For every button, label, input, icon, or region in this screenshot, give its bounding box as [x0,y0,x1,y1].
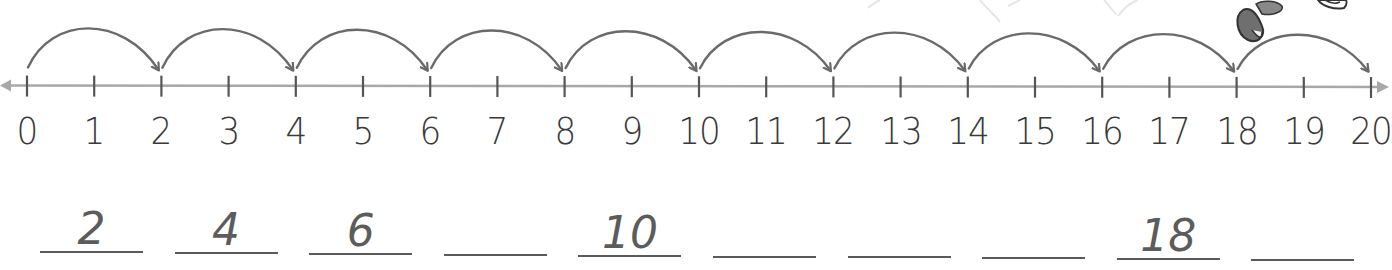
tick-label: 10 [678,112,720,150]
answer-blank[interactable]: 2 [40,219,143,253]
hop-arrow [162,29,292,70]
blank-underline [578,255,681,257]
tick-label: 4 [285,112,306,150]
tick-label: 17 [1149,112,1191,150]
left-arrow-icon [0,80,11,92]
hop-arrow [297,30,427,70]
tick-label: 2 [151,112,172,150]
hop-arrow [431,31,561,71]
answer-blank[interactable]: 10 [578,223,681,257]
handwritten-answer: 2 [40,207,143,251]
tick-label: 12 [813,112,855,150]
answer-blank[interactable] [1251,227,1354,261]
tick-label: 11 [745,112,787,150]
blank-underline [848,256,951,258]
tick-label: 8 [554,112,575,150]
right-arrow-icon [1377,81,1389,93]
blank-underline [309,253,412,255]
tick-label: 19 [1283,112,1325,150]
blank-underline [444,254,547,256]
handwritten-answer: 10 [578,211,681,255]
tick-label: 13 [880,112,922,150]
tick-label: 7 [487,112,508,150]
tick-label: 9 [621,112,642,150]
blank-underline [175,252,278,254]
handwritten-answer: 18 [1117,214,1220,258]
blank-underline [713,256,816,258]
tick-label: 0 [17,112,38,150]
answer-blank[interactable]: 6 [309,221,412,255]
tick-label: 15 [1014,112,1056,150]
answer-blank[interactable] [444,222,547,256]
answer-blank[interactable]: 4 [175,220,278,254]
tick-label: 6 [420,112,441,150]
handwritten-answer: 4 [175,208,278,252]
tick-label: 5 [353,112,374,150]
hop-arrow [566,31,696,70]
faint-background-lines [868,0,1138,22]
tick-label: 18 [1216,112,1258,150]
hop-arrow [1103,34,1233,71]
hop-arrow [969,33,1099,70]
blank-underline [1251,259,1354,261]
tick-label: 20 [1350,112,1392,150]
hop-arrow [834,33,964,71]
hop-arrow [700,32,830,70]
blank-underline [40,251,143,253]
answer-blank[interactable] [713,224,816,258]
blank-underline [1117,258,1220,260]
tick-label: 3 [218,112,239,150]
blank-underline [982,257,1085,259]
tick-label: 1 [84,112,105,150]
answer-blank[interactable]: 18 [1117,226,1220,260]
tick-label: 16 [1081,112,1123,150]
tick-label: 14 [947,112,989,150]
handwritten-answer: 6 [309,209,412,253]
answer-blank[interactable] [982,225,1085,259]
axis-line [6,86,1380,87]
hop-arrow [28,28,158,69]
answer-blank[interactable] [848,224,951,258]
